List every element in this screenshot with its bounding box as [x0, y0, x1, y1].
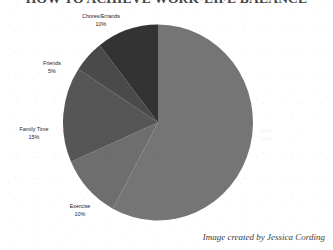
- pie-label-friends-pct: 5%: [30, 68, 74, 76]
- page-title: HOW TO ACHIEVE WORK-LIFE BALANCE: [0, 0, 333, 7]
- pie-label-exercise: Exercise 10%: [58, 203, 102, 219]
- pie-chart: [62, 24, 254, 221]
- pie-label-friends: Friends 5%: [30, 60, 74, 76]
- pie-label-exercise-pct: 10%: [58, 211, 102, 219]
- pie-chart-infographic: HOW TO ACHIEVE WORK-LIFE BALANCE Work 55…: [0, 0, 333, 250]
- pie-label-chores-errands-pct: 10%: [71, 21, 131, 29]
- pie-label-friends-name: Friends: [30, 60, 74, 68]
- pie-label-exercise-name: Exercise: [58, 203, 102, 211]
- pie-chart-svg: [62, 24, 254, 221]
- pie-label-chores-errands-name: Chores/Errands: [71, 13, 131, 21]
- image-credit: Image created by Jessica Cording: [203, 232, 325, 242]
- pie-label-work: Work 55%: [246, 128, 286, 144]
- pie-label-family-time-pct: 15%: [8, 134, 60, 142]
- pie-slice-group: [63, 25, 253, 221]
- pie-label-work-pct: 55%: [246, 136, 286, 144]
- pie-label-family-time-name: Family Time: [8, 126, 60, 134]
- pie-label-work-name: Work: [246, 128, 286, 136]
- pie-label-chores-errands: Chores/Errands 10%: [71, 13, 131, 29]
- pie-label-family-time: Family Time 15%: [8, 126, 60, 142]
